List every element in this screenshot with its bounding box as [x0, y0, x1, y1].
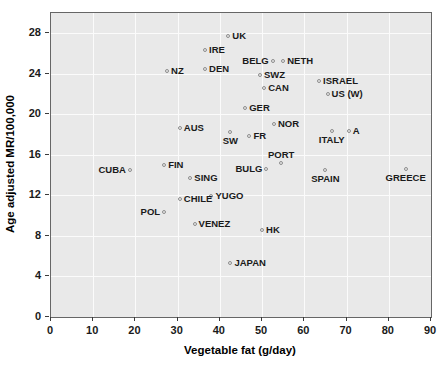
data-point-label: A — [353, 126, 360, 136]
y-axis-tick — [45, 154, 49, 155]
data-point — [404, 167, 408, 171]
data-point-label: IRE — [209, 45, 225, 55]
data-point-label: SING — [194, 173, 217, 183]
y-axis-tick — [45, 113, 49, 114]
x-axis-tick-label: 20 — [128, 324, 140, 336]
data-point — [203, 67, 207, 71]
data-point — [247, 134, 251, 138]
y-axis-tick-label: 8 — [35, 229, 41, 241]
data-point-label: GER — [249, 103, 270, 113]
x-axis-tick-label: 60 — [297, 324, 309, 336]
data-point — [271, 59, 275, 63]
x-axis-tick-label: 50 — [255, 324, 267, 336]
x-axis-tick-label: 40 — [213, 324, 225, 336]
data-point — [162, 210, 166, 214]
data-point — [162, 163, 166, 167]
data-point — [258, 73, 262, 77]
gridline-vertical — [220, 13, 221, 317]
data-point — [228, 130, 232, 134]
data-point-label: NETH — [287, 56, 313, 66]
data-point-label: POL — [141, 207, 161, 217]
scatter-chart: UKIREBELGNETHNZDENSWZISRAELCANUS (W)GERN… — [0, 0, 448, 369]
data-point-label: SW — [223, 136, 238, 146]
data-point-label: US (W) — [332, 89, 363, 99]
data-point — [188, 176, 192, 180]
y-axis-tick — [45, 235, 49, 236]
x-axis-tick-label: 70 — [339, 324, 351, 336]
gridline-horizontal — [51, 155, 431, 156]
x-axis-tick — [388, 317, 389, 321]
data-point-label: CUBA — [99, 165, 126, 175]
y-axis-tick — [45, 32, 49, 33]
data-point — [279, 161, 283, 165]
gridline-vertical — [389, 13, 390, 317]
data-point-label: FIN — [168, 160, 183, 170]
data-point — [193, 222, 197, 226]
data-point-label: VENEZ — [199, 219, 231, 229]
data-point — [226, 34, 230, 38]
data-point-label: SPAIN — [311, 174, 339, 184]
data-point-label: NOR — [278, 119, 299, 129]
y-axis-tick-label: 12 — [29, 188, 41, 200]
data-point-label: PORT — [268, 150, 294, 160]
data-point — [203, 48, 207, 52]
data-point-label: BULG — [235, 164, 262, 174]
data-point — [165, 69, 169, 73]
gridline-horizontal — [51, 236, 431, 237]
gridline-horizontal — [51, 276, 431, 277]
data-point — [347, 129, 351, 133]
y-axis-tick — [45, 194, 49, 195]
y-axis-tick — [45, 73, 49, 74]
x-axis-tick — [177, 317, 178, 321]
data-point — [281, 59, 285, 63]
data-point — [178, 197, 182, 201]
x-axis-tick-label: 0 — [47, 324, 53, 336]
data-point — [178, 126, 182, 130]
x-axis-tick — [261, 317, 262, 321]
data-point-label: AUS — [184, 123, 204, 133]
y-axis-tick-label: 0 — [35, 310, 41, 322]
gridline-horizontal — [51, 114, 431, 115]
data-point — [317, 79, 321, 83]
x-axis-tick — [219, 317, 220, 321]
x-axis-tick — [134, 317, 135, 321]
data-point-label: FR — [253, 131, 266, 141]
data-point-label: SWZ — [264, 70, 285, 80]
y-axis-tick-label: 24 — [29, 67, 41, 79]
x-axis-tick-label: 30 — [171, 324, 183, 336]
data-point — [228, 261, 232, 265]
y-axis-tick-label: 28 — [29, 26, 41, 38]
data-point — [243, 106, 247, 110]
gridline-vertical — [135, 13, 136, 317]
data-point-label: YUGO — [215, 191, 243, 201]
data-point — [260, 228, 264, 232]
data-point — [262, 86, 266, 90]
y-axis-tick — [45, 275, 49, 276]
y-axis-tick-label: 4 — [35, 269, 41, 281]
gridline-vertical — [93, 13, 94, 317]
y-axis-tick-label: 20 — [29, 107, 41, 119]
data-point-label: JAPAN — [234, 258, 266, 268]
data-point — [272, 122, 276, 126]
data-point-label: CHILE — [184, 194, 213, 204]
data-point-label: ITALY — [319, 135, 345, 145]
data-point-label: UK — [232, 31, 246, 41]
y-axis-tick-label: 16 — [29, 148, 41, 160]
x-axis-tick-label: 10 — [86, 324, 98, 336]
data-point — [128, 168, 132, 172]
x-axis-tick — [50, 317, 51, 321]
plot-area: UKIREBELGNETHNZDENSWZISRAELCANUS (W)GERN… — [50, 12, 432, 318]
x-axis-tick — [430, 317, 431, 321]
x-axis-label: Vegetable fat (g/day) — [184, 344, 296, 356]
y-axis-tick — [45, 316, 49, 317]
data-point-label: GREECE — [386, 173, 426, 183]
data-point-label: CAN — [268, 83, 289, 93]
gridline-vertical — [347, 13, 348, 317]
data-point-label: NZ — [171, 66, 184, 76]
x-axis-tick — [346, 317, 347, 321]
x-axis-tick-label: 80 — [382, 324, 394, 336]
data-point — [326, 92, 330, 96]
gridline-horizontal — [51, 74, 431, 75]
x-axis-tick-label: 90 — [424, 324, 436, 336]
data-point — [264, 167, 268, 171]
